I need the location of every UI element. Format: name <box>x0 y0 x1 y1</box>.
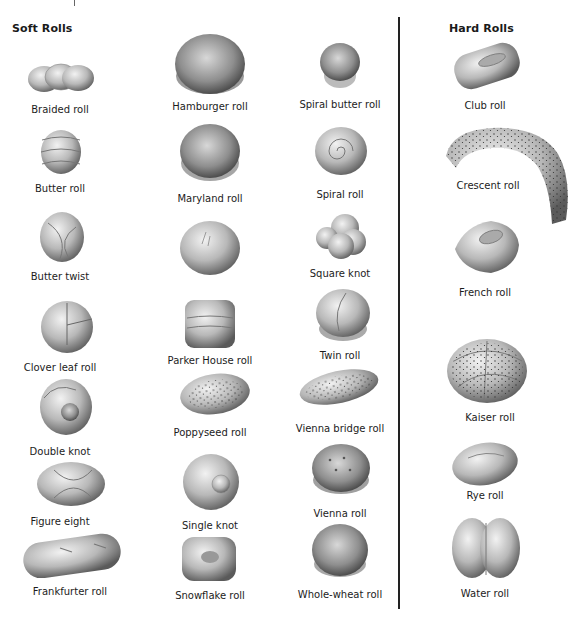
roll-label: Kaiser roll <box>430 412 550 423</box>
rye-roll-illustration <box>450 440 520 488</box>
double-knot-illustration <box>36 376 96 438</box>
roll-butter: Butter roll <box>10 128 110 198</box>
roll-french: French roll <box>430 215 540 305</box>
whole-wheat-illustration <box>310 522 370 580</box>
pan-roll-illustration <box>178 218 242 276</box>
roll-label: Water roll <box>430 588 540 599</box>
roll-club: Club roll <box>430 40 540 115</box>
roll-label: Vienna roll <box>285 508 395 519</box>
water-roll-illustration <box>450 515 522 581</box>
roll-label: Butter roll <box>10 183 110 194</box>
roll-label: Single knot <box>155 520 265 531</box>
parker-house-illustration <box>183 298 237 350</box>
roll-label: Poppyseed roll <box>155 427 265 438</box>
roll-label: Snowflake roll <box>155 590 265 601</box>
roll-label: Frankfurter roll <box>10 586 130 597</box>
roll-crescent: Crescent roll <box>430 120 586 230</box>
roll-label: Braided roll <box>10 104 110 115</box>
roll-label: Rye roll <box>430 490 540 501</box>
roll-poppyseed: Poppyseed roll <box>155 370 265 440</box>
roll-frankfurter: Frankfurter roll <box>10 530 130 600</box>
roll-snowflake: Snowflake roll <box>155 535 265 605</box>
roll-label: Hamburger roll <box>155 101 265 112</box>
kaiser-roll-illustration <box>444 335 530 405</box>
roll-label: Double knot <box>10 446 110 457</box>
poppyseed-roll-illustration <box>177 370 253 418</box>
roll-label: Maryland roll <box>155 193 265 204</box>
roll-label: French roll <box>430 287 540 298</box>
crescent-roll-illustration <box>436 120 586 230</box>
roll-water: Water roll <box>430 515 540 605</box>
roll-spiral: Spiral roll <box>285 125 395 205</box>
roll-label: Clover leaf roll <box>10 362 110 373</box>
roll-rye: Rye roll <box>430 440 540 510</box>
spiral-butter-illustration <box>318 42 362 90</box>
roll-figure-eight: Figure eight <box>10 458 110 528</box>
maryland-roll-illustration <box>178 123 242 185</box>
vienna-roll-illustration <box>310 442 372 498</box>
roll-label: Parker House roll <box>155 355 265 366</box>
single-knot-illustration <box>181 452 241 512</box>
roll-kaiser: Kaiser roll <box>430 335 550 430</box>
frankfurter-roll-illustration <box>20 532 124 578</box>
french-roll-illustration <box>447 215 523 277</box>
club-roll-illustration <box>448 40 526 90</box>
roll-clover-leaf: Clover leaf roll <box>10 295 110 375</box>
section-divider <box>398 17 400 609</box>
roll-braided: Braided roll <box>10 55 110 125</box>
roll-label: Club roll <box>430 100 540 111</box>
roll-label: Spiral roll <box>285 189 395 200</box>
roll-maryland: Maryland roll <box>155 123 265 208</box>
roll-label: Figure eight <box>10 516 110 527</box>
snowflake-roll-illustration <box>180 535 238 583</box>
soft-rolls-heading: Soft Rolls <box>12 22 72 35</box>
clover-leaf-illustration <box>38 297 96 355</box>
roll-label: Vienna bridge roll <box>285 423 395 434</box>
roll-label: Spiral butter roll <box>285 99 395 110</box>
roll-spiral-butter: Spiral butter roll <box>285 42 395 117</box>
figure-eight-illustration <box>34 460 108 508</box>
roll-label: Square knot <box>285 268 395 279</box>
butter-roll-illustration <box>38 128 84 176</box>
roll-vienna: Vienna roll <box>285 442 395 522</box>
roll-label: Crescent roll <box>410 180 566 191</box>
roll-twin: Twin roll <box>285 287 395 362</box>
braided-roll-illustration <box>26 61 96 95</box>
hamburger-roll-illustration <box>172 32 248 98</box>
roll-whole-wheat: Whole-wheat roll <box>285 522 395 602</box>
roll-pan: Pan roll <box>155 218 265 298</box>
roll-single-knot: Single knot <box>155 452 265 532</box>
square-knot-illustration <box>315 212 367 262</box>
roll-double-knot: Double knot <box>10 376 110 456</box>
roll-vienna-bridge: Vienna bridge roll <box>285 365 395 435</box>
roll-label: Whole-wheat roll <box>285 589 395 600</box>
spiral-roll-illustration <box>313 125 369 177</box>
twin-roll-illustration <box>313 287 373 343</box>
roll-square-knot: Square knot <box>285 210 395 285</box>
butter-twist-illustration <box>38 209 86 265</box>
page-edge-mark <box>74 0 75 6</box>
hard-rolls-heading: Hard Rolls <box>449 22 514 35</box>
roll-label: Twin roll <box>285 350 395 361</box>
roll-hamburger: Hamburger roll <box>155 32 265 117</box>
roll-parker-house: Parker House roll <box>155 298 265 368</box>
vienna-bridge-illustration <box>297 365 381 409</box>
roll-label: Butter twist <box>10 271 110 282</box>
roll-butter-twist: Butter twist <box>10 207 110 287</box>
